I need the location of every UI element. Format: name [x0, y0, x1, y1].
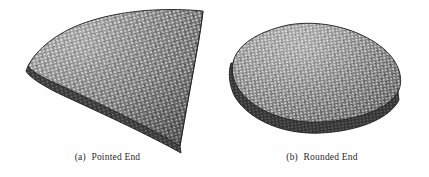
- caption-tag-b: (b): [286, 152, 298, 162]
- rounded-end-top-surface: [215, 0, 429, 177]
- rounded-end-mesh-graphic: [215, 0, 429, 177]
- caption-tag-a: (a): [75, 152, 86, 162]
- panel-rounded-end: (b) Rounded End: [215, 0, 429, 177]
- caption-pointed-end: (a) Pointed End: [0, 152, 215, 162]
- caption-text-b: Rounded End: [304, 152, 358, 162]
- caption-text-a: Pointed End: [91, 152, 140, 162]
- caption-rounded-end: (b) Rounded End: [215, 152, 429, 162]
- panel-pointed-end: (a) Pointed End: [0, 0, 215, 177]
- pointed-end-top-surface: [0, 0, 215, 177]
- pointed-end-mesh-graphic: [0, 0, 215, 177]
- figure-root: (a) Pointed End: [0, 0, 429, 177]
